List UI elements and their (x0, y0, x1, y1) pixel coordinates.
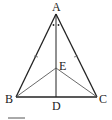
label-c: C (99, 92, 107, 106)
segment-be (16, 68, 56, 97)
label-d: D (52, 99, 61, 113)
label-b: B (5, 92, 13, 106)
angle-mark-left (53, 24, 55, 26)
label-e: E (59, 59, 66, 73)
tick-mark-ab (34, 56, 38, 57)
angle-mark-right (58, 24, 60, 26)
segment-ac (56, 14, 97, 97)
label-a: A (52, 0, 61, 14)
geometry-diagram: A B C D E (0, 0, 112, 120)
segment-ab (16, 14, 56, 97)
